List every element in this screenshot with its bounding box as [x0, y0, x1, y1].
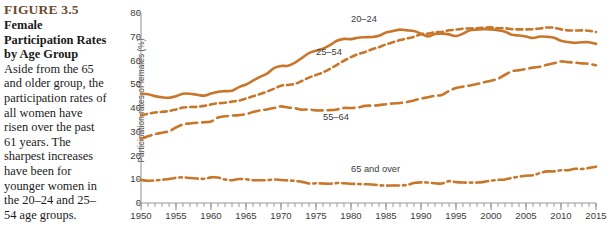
x-axis-tick: 1990 — [401, 210, 441, 221]
series-label: 55–64 — [323, 112, 349, 122]
x-axis-tick: 1995 — [436, 210, 476, 221]
x-axis-tick: 1955 — [156, 210, 196, 221]
x-axis-tick: 2015 — [576, 210, 611, 221]
x-axis-tick: 1960 — [191, 210, 231, 221]
figure-number: FIGURE 3.5 — [4, 2, 107, 17]
series-label: 25–54 — [316, 47, 342, 57]
figure-description: Aside from the 65 and older group, the p… — [4, 62, 107, 223]
x-axis-tick: 2005 — [506, 210, 546, 221]
series-label: 20–24 — [351, 14, 377, 24]
series-line — [141, 29, 596, 98]
series-line — [141, 27, 596, 115]
x-axis-tick: 1950 — [121, 210, 161, 221]
x-axis-tick: 1975 — [296, 210, 336, 221]
figure-title: Female Participation Rates by Age Group — [4, 18, 107, 62]
data-series — [141, 27, 596, 185]
x-axis-tick: 1980 — [331, 210, 371, 221]
axes — [137, 13, 596, 210]
series-line — [141, 61, 596, 138]
x-axis-tick: 2000 — [471, 210, 511, 221]
figure-caption: FIGURE 3.5 Female Participation Rates by… — [4, 2, 107, 241]
plot-area — [107, 0, 599, 241]
series-label: 65 and over — [351, 164, 400, 174]
x-axis-tick: 2010 — [541, 210, 581, 221]
x-axis-tick: 1965 — [226, 210, 266, 221]
x-axis-tick: 1985 — [366, 210, 406, 221]
x-axis-tick: 1970 — [261, 210, 301, 221]
line-chart: Participation rates of females (%) 01020… — [107, 0, 599, 241]
